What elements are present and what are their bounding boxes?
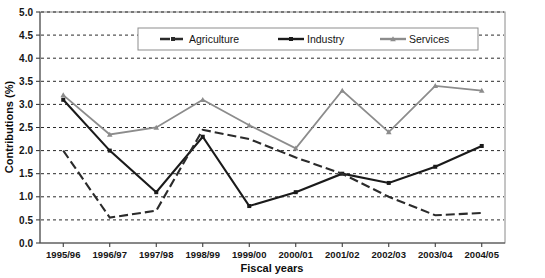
y-axis-tick-label: 1.0 [19, 191, 33, 202]
x-axis-tick-label: 2004/05 [465, 249, 500, 260]
data-point-industry [154, 190, 158, 194]
x-axis-tick-label: 1999/00 [232, 249, 266, 260]
legend-label-agriculture: Agriculture [189, 33, 239, 45]
chart-container: 0.00.51.01.52.02.53.03.54.04.55.0 1995/9… [0, 0, 545, 278]
y-axis-tick-label: 0.5 [19, 215, 33, 226]
y-axis-tick-label: 3.0 [19, 99, 33, 110]
data-point-industry [433, 165, 437, 169]
x-axis-title: Fiscal years [241, 262, 304, 274]
data-point-industry [61, 98, 65, 102]
x-axis-tick-label: 1996/97 [93, 249, 127, 260]
y-axis-tick-label: 1.5 [19, 168, 33, 179]
chart-legend: AgricultureIndustryServices [138, 28, 478, 50]
y-axis-tick-label: 2.0 [19, 145, 33, 156]
x-axis-tick-label: 1997/98 [139, 249, 173, 260]
x-axis-tick-label: 1998/99 [186, 249, 220, 260]
y-axis-tick-label: 5.0 [19, 7, 33, 18]
y-axis-title: Contributions (%) [3, 81, 15, 174]
x-axis-tick-label: 2001/02 [325, 249, 359, 260]
data-point-industry [108, 149, 112, 153]
legend-marker-agriculture [171, 37, 175, 41]
data-point-industry [294, 190, 298, 194]
y-axis-tick-label: 4.0 [19, 53, 33, 64]
data-point-industry [247, 204, 251, 208]
data-point-industry [387, 181, 391, 185]
y-axis-tick-label: 0.0 [19, 238, 33, 249]
x-axis-tick-label: 2002/03 [372, 249, 406, 260]
x-axis-tick-label: 2000/01 [279, 249, 314, 260]
y-axis-tick-label: 4.5 [19, 30, 33, 41]
x-axis-tick-label: 2003/04 [418, 249, 453, 260]
legend-marker-industry [289, 37, 293, 41]
y-axis-tick-label: 3.5 [19, 76, 33, 87]
data-point-industry [201, 135, 205, 139]
y-axis-tick-label: 2.5 [19, 122, 33, 133]
legend-label-industry: Industry [307, 33, 345, 45]
line-chart: 0.00.51.01.52.02.53.03.54.04.55.0 1995/9… [0, 0, 545, 278]
legend-label-services: Services [409, 33, 449, 45]
data-point-industry [480, 144, 484, 148]
x-axis-tick-label: 1995/96 [46, 249, 80, 260]
